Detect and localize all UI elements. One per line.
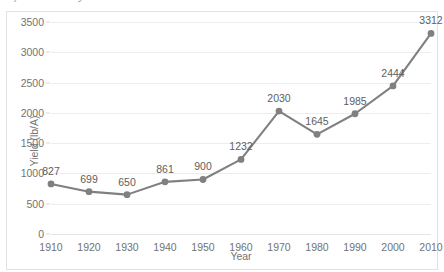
- y-axis-tick-label: 0: [38, 228, 44, 240]
- clipped-caption-text: your needs vary.: [14, 0, 214, 3]
- data-point-label: 650: [118, 176, 136, 188]
- chart-frame: Yield (lb/A) 050010001500200025003000350…: [6, 11, 438, 270]
- data-point-label: 1985: [343, 95, 366, 107]
- data-point-marker: [162, 178, 169, 185]
- series-polyline: [51, 33, 431, 194]
- y-axis-tick-label: 3500: [21, 16, 44, 28]
- data-point-marker: [48, 181, 55, 188]
- y-axis-tick-label: 2000: [21, 107, 44, 119]
- data-point-label: 3312: [419, 14, 442, 26]
- data-point-marker: [276, 108, 283, 115]
- data-point-label: 900: [194, 160, 212, 172]
- y-axis-tick-mark: [46, 82, 50, 83]
- x-axis-title: Year: [51, 250, 431, 262]
- data-point-marker: [238, 156, 245, 163]
- line-series: [51, 22, 431, 234]
- data-point-label: 861: [156, 163, 174, 175]
- y-axis-tick-mark: [46, 143, 50, 144]
- y-axis-tick-mark: [46, 112, 50, 113]
- data-point-marker: [352, 110, 359, 117]
- y-axis-tick-label: 3000: [21, 46, 44, 58]
- y-axis-tick-label: 2500: [21, 77, 44, 89]
- gridline: [51, 234, 431, 235]
- data-point-marker: [200, 176, 207, 183]
- data-point-marker: [428, 30, 435, 37]
- data-point-marker: [390, 83, 397, 90]
- data-point-label: 1645: [305, 115, 328, 127]
- data-point-marker: [314, 131, 321, 138]
- data-point-marker: [124, 191, 131, 198]
- plot-area: 0500100015002000250030003500 19101920193…: [51, 22, 431, 234]
- y-axis-tick-label: 1500: [21, 137, 44, 149]
- data-point-label: 827: [42, 165, 60, 177]
- data-point-label: 699: [80, 173, 98, 185]
- y-axis-tick-mark: [46, 234, 50, 235]
- data-point-label: 2444: [381, 67, 404, 79]
- y-axis-tick-mark: [46, 22, 50, 23]
- series-markers: [48, 30, 435, 198]
- data-point-label: 2030: [267, 92, 290, 104]
- data-point-label: 1232: [229, 140, 252, 152]
- y-axis-tick-mark: [46, 52, 50, 53]
- y-axis-tick-label: 1000: [21, 167, 44, 179]
- y-axis-tick-label: 500: [26, 198, 44, 210]
- y-axis-tick-mark: [46, 203, 50, 204]
- data-point-marker: [86, 188, 93, 195]
